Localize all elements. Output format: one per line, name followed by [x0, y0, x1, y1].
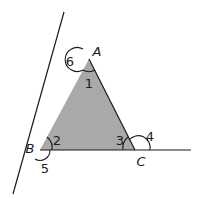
- vertex-label-a: A: [93, 45, 102, 58]
- triangle-diagram: A B C 1 2 3 4 5 6: [0, 0, 202, 199]
- angle-label-4: 4: [146, 130, 154, 143]
- line-ba-extended: [13, 12, 64, 194]
- angle-label-3: 3: [116, 134, 124, 147]
- angle-5-arc: [35, 150, 50, 160]
- angle-label-6: 6: [66, 55, 74, 68]
- angle-label-1: 1: [85, 77, 93, 90]
- diagram-graphics: [0, 0, 202, 199]
- angle-label-2: 2: [53, 134, 61, 147]
- vertex-label-b: B: [26, 142, 35, 155]
- angle-label-5: 5: [41, 162, 49, 175]
- vertex-label-c: C: [136, 155, 145, 168]
